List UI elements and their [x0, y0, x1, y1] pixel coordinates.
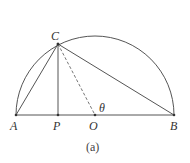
point-a [15, 114, 18, 117]
chord-cb [58, 44, 174, 115]
label-b: B [170, 119, 178, 133]
point-p [57, 114, 60, 117]
label-p: P [52, 119, 61, 133]
label-theta: θ [99, 101, 105, 115]
point-o [94, 114, 97, 117]
label-o: O [89, 119, 98, 133]
label-c: C [51, 29, 60, 43]
chord-ac [16, 44, 58, 115]
semicircle-diagram: A P O B C θ (a) [0, 0, 190, 163]
point-b [173, 114, 176, 117]
figure-caption: (a) [86, 140, 99, 154]
label-a: A [9, 119, 18, 133]
radius-oc-dashed [58, 44, 95, 115]
